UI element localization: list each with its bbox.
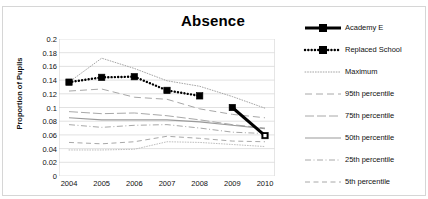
legend-marker — [319, 46, 327, 54]
y-tick-label: 0.12 — [42, 89, 57, 98]
y-tick-label: 0.02 — [42, 158, 57, 167]
legend-label: 95th percentile — [345, 87, 428, 101]
series-marker-open — [263, 134, 266, 137]
series-marker — [164, 87, 170, 93]
legend-key-icon — [303, 153, 343, 167]
legend-key-icon — [303, 87, 343, 101]
y-tick-label: 0.14 — [42, 76, 57, 85]
chart-svg — [59, 39, 275, 176]
plot-area — [59, 39, 275, 176]
series-line — [69, 58, 265, 108]
legend-key-icon — [303, 109, 343, 123]
chart-title: Absence — [123, 12, 303, 29]
y-tick-label: 0.2 — [47, 35, 57, 44]
legend-key-icon — [303, 131, 343, 145]
legend-item[interactable]: Academy E — [303, 21, 427, 35]
y-tick-label: 0.08 — [42, 117, 57, 126]
y-tick-label: 0.16 — [42, 62, 57, 71]
legend-key-icon — [303, 175, 343, 189]
series-marker — [66, 79, 72, 85]
legend-marker — [319, 24, 327, 32]
legend-label: 75th percentile — [345, 109, 428, 123]
legend-item[interactable]: 5th percentile — [303, 175, 427, 189]
legend-key-icon — [303, 21, 343, 35]
legend-item[interactable]: 25th percentile — [303, 153, 427, 167]
series-line — [69, 136, 265, 144]
legend-label: 25th percentile — [345, 153, 428, 167]
legend-item[interactable]: Maximum — [303, 65, 427, 79]
series-marker — [196, 93, 202, 99]
chart-legend: Academy EReplaced SchoolMaximum95th perc… — [303, 13, 427, 193]
y-tick-label: 0.06 — [42, 130, 57, 139]
legend-key-icon — [303, 43, 343, 57]
y-tick-label: 0.1 — [47, 103, 57, 112]
series-marker — [229, 104, 235, 110]
legend-item[interactable]: 75th percentile — [303, 109, 427, 123]
legend-item[interactable]: 95th percentile — [303, 87, 427, 101]
legend-label: Maximum — [345, 65, 428, 79]
series-marker — [98, 74, 104, 80]
legend-item[interactable]: 50th percentile — [303, 131, 427, 145]
legend-label: Academy E — [345, 21, 428, 35]
x-axis-ticks: 2004200520062007200820092010 — [59, 179, 275, 193]
y-tick-label: 0.04 — [42, 144, 57, 153]
series-marker — [131, 73, 137, 79]
x-tick-label: 2010 — [245, 179, 285, 188]
legend-label: Replaced School — [345, 43, 428, 57]
legend-item[interactable]: Replaced School — [303, 43, 427, 57]
legend-label: 5th percentile — [345, 175, 428, 189]
legend-key-icon — [303, 65, 343, 79]
chart-container: Absence Proportion of Pupils 00.020.040.… — [2, 6, 426, 196]
y-tick-label: 0.18 — [42, 48, 57, 57]
legend-label: 50th percentile — [345, 131, 428, 145]
y-axis-ticks: 00.020.040.060.080.10.120.140.160.180.2 — [13, 39, 57, 176]
